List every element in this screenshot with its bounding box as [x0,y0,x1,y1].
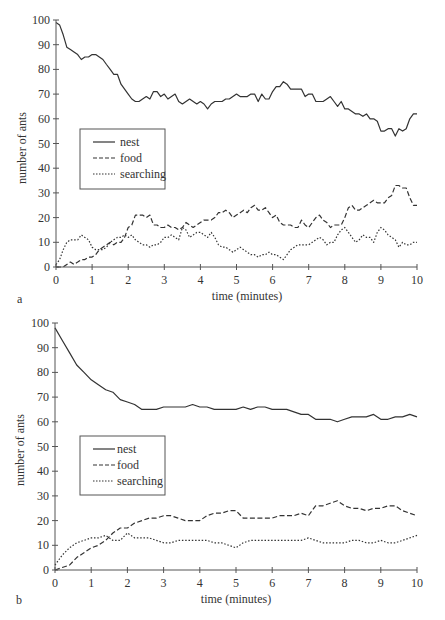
legend-label-food: food [120,151,142,165]
legend-label-searching: searching [120,167,166,181]
x-tick-label: 2 [124,576,130,590]
y-tick-label: 20 [38,211,50,225]
x-tick-label: 9 [378,576,384,590]
x-tick-label: 6 [270,273,276,287]
figure: 0123456789100102030405060708090100 nest … [0,0,445,620]
y-tick-label: 70 [37,390,49,404]
series-nest-line [55,328,417,422]
x-tick-label: 5 [234,273,240,287]
x-tick-label: 7 [305,576,311,590]
y-tick-label: 0 [43,563,49,577]
y-tick-label: 30 [37,489,49,503]
y-tick-label: 40 [37,464,49,478]
series-nest-line [56,23,417,137]
y-tick-label: 0 [44,260,50,274]
legend-label-food: food [117,458,139,472]
y-tick-label: 70 [38,87,50,101]
chart-panel-a: 0123456789100102030405060708090100 nest … [15,13,423,306]
x-tick-label: 8 [342,576,348,590]
series-searching-line [56,228,417,265]
y-tick-label: 100 [32,13,50,27]
series-searching-line [55,533,417,565]
x-tick-label: 4 [197,273,203,287]
panel-label-a: a [17,292,23,306]
chart-panel-b: 0123456789100102030405060708090100 nest … [13,316,423,607]
legend-label-nest: nest [117,442,137,456]
y-tick-label: 80 [37,365,49,379]
x-tick-label: 3 [161,576,167,590]
y-tick-label: 90 [38,38,50,52]
x-tick-label: 1 [88,576,94,590]
series-food-line [56,186,417,268]
x-axis-title-a: time (minutes) [212,289,282,303]
x-tick-label: 1 [89,273,95,287]
y-tick-label: 40 [38,161,50,175]
series-food-line [55,501,417,570]
y-tick-label: 10 [38,235,50,249]
legend-label-nest: nest [120,135,140,149]
x-tick-label: 6 [269,576,275,590]
y-axis-title-b: number of ants [13,414,27,486]
y-tick-label: 30 [38,186,50,200]
x-tick-label: 10 [411,576,423,590]
x-tick-label: 3 [161,273,167,287]
y-tick-label: 60 [37,415,49,429]
legend-a: nest food searching [80,129,166,189]
x-tick-label: 9 [378,273,384,287]
legend-label-searching: searching [117,474,163,488]
x-tick-label: 10 [411,273,423,287]
x-tick-label: 5 [233,576,239,590]
y-tick-label: 60 [38,112,50,126]
legend-b: nest food searching [80,436,165,495]
y-tick-label: 80 [38,62,50,76]
x-tick-label: 0 [52,576,58,590]
x-axis-title-b: time (minutes) [201,592,271,606]
y-tick-label: 50 [38,137,50,151]
y-tick-label: 90 [37,341,49,355]
x-tick-label: 7 [306,273,312,287]
y-axis-title-a: number of ants [15,112,29,184]
panel-label-b: b [16,593,22,607]
x-tick-label: 0 [53,273,59,287]
y-tick-label: 20 [37,514,49,528]
y-tick-label: 100 [31,316,49,330]
x-tick-label: 4 [197,576,203,590]
x-tick-label: 2 [125,273,131,287]
y-tick-label: 50 [37,440,49,454]
y-tick-label: 10 [37,538,49,552]
x-tick-label: 8 [342,273,348,287]
